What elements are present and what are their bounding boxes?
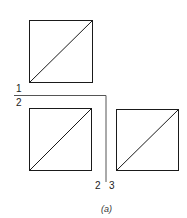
square-2: [30, 109, 92, 171]
label-left: 2: [95, 181, 101, 191]
label-right: 3: [109, 181, 115, 191]
square-3: [117, 110, 179, 171]
label-top: 1: [16, 84, 22, 94]
square-1: [30, 21, 93, 83]
diagram-canvas: [0, 0, 187, 218]
label-bottom: 2: [16, 98, 22, 108]
figure-caption: (a): [101, 204, 112, 214]
